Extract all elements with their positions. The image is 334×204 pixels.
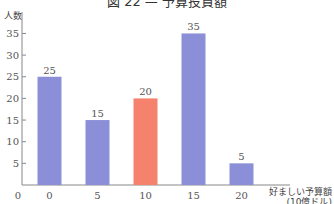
origin-label: 0 — [15, 190, 21, 201]
y-tick-label: 35 — [6, 28, 19, 39]
bar-value-label: 25 — [43, 65, 56, 76]
x-tick-label: 0 — [46, 190, 52, 201]
y-tick-label: 10 — [6, 136, 19, 147]
bar-5 — [86, 120, 110, 185]
bar-15 — [182, 33, 206, 185]
y-tick-label: 25 — [6, 71, 19, 82]
y-tick-label: 15 — [6, 115, 19, 126]
x-tick-label: 5 — [94, 190, 100, 201]
bar-0 — [38, 77, 62, 185]
bar-chart: 5101520253035025015520103515520 — [0, 0, 334, 204]
y-tick-label: 5 — [13, 158, 19, 169]
bar-value-label: 5 — [238, 151, 244, 162]
y-tick-label: 30 — [6, 50, 19, 61]
bar-20 — [230, 163, 254, 185]
bar-value-label: 20 — [139, 86, 152, 97]
bar-10 — [134, 98, 158, 185]
x-tick-label: 15 — [187, 190, 200, 201]
x-tick-label: 10 — [139, 190, 152, 201]
bar-value-label: 35 — [187, 21, 200, 32]
x-tick-label: 20 — [235, 190, 248, 201]
y-tick-label: 20 — [6, 93, 19, 104]
bar-value-label: 15 — [91, 108, 104, 119]
